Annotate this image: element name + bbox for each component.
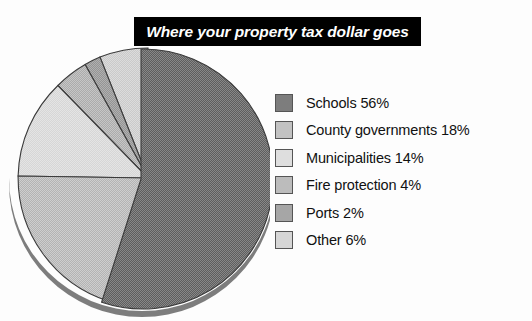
legend-label-ports: Ports 2% [306,205,364,221]
legend-item-fire-protection[interactable]: Fire protection 4% [275,172,530,200]
legend-label-fire-protection: Fire protection 4% [306,177,421,193]
legend-item-other[interactable]: Other 6% [275,227,530,255]
page-title: Where your property tax dollar goes [146,23,409,41]
legend-item-ports[interactable]: Ports 2% [275,199,530,227]
pie-chart-graphic [2,45,270,317]
legend-swatch-schools [275,94,293,112]
legend-label-other: Other 6% [306,232,366,248]
legend-swatch-ports [275,204,293,222]
legend-label-municipalities: Municipalities 14% [306,150,423,166]
legend-swatch-county-governments [275,121,293,139]
legend-label-county-governments: County governments 18% [306,122,470,138]
legend-swatch-municipalities [275,149,293,167]
legend-item-schools[interactable]: Schools 56% [275,89,530,117]
legend-item-county-governments[interactable]: County governments 18% [275,117,530,145]
legend-label-schools: Schools 56% [306,95,389,111]
chart-legend: Schools 56% County governments 18% Munic… [275,89,530,254]
chart-title-banner: Where your property tax dollar goes [134,17,421,46]
pie-chart-figure: Where your property tax dollar goes [0,0,532,321]
legend-item-municipalities[interactable]: Municipalities 14% [275,144,530,172]
legend-swatch-fire-protection [275,176,293,194]
legend-swatch-other [275,231,293,249]
